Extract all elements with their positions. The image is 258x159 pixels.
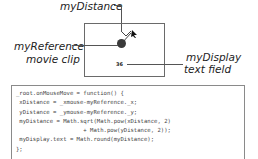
code-line: myDisplay.text = Math.round(myDistance); (16, 136, 154, 142)
movie-clip-label: movie clip (26, 53, 80, 65)
my-reference-movie-clip (117, 39, 126, 48)
code-listing: _root.onMouseMove = function() { xDistan… (16, 89, 171, 154)
code-line: + Math.pow(yDistance, 2)); (16, 127, 171, 133)
code-line: xDistance = _xmouse-myReference._x; (16, 99, 137, 105)
text-field-label: text field (184, 63, 231, 75)
code-line: _root.onMouseMove = function() { (16, 90, 124, 96)
reference-leader-line (72, 45, 118, 46)
my-reference-label: myReference (14, 40, 84, 52)
my-display-label: myDisplay (186, 51, 241, 63)
code-line: yDistance = _ymouse-myReference._y; (16, 109, 137, 115)
my-display-text-field: 36 (116, 61, 123, 67)
code-line: myDistance = Math.sqrt(Math.pow(xDistanc… (16, 118, 171, 124)
display-leader-line (127, 64, 183, 65)
mouse-pointer-icon (131, 30, 137, 38)
code-line: }; (16, 146, 23, 152)
